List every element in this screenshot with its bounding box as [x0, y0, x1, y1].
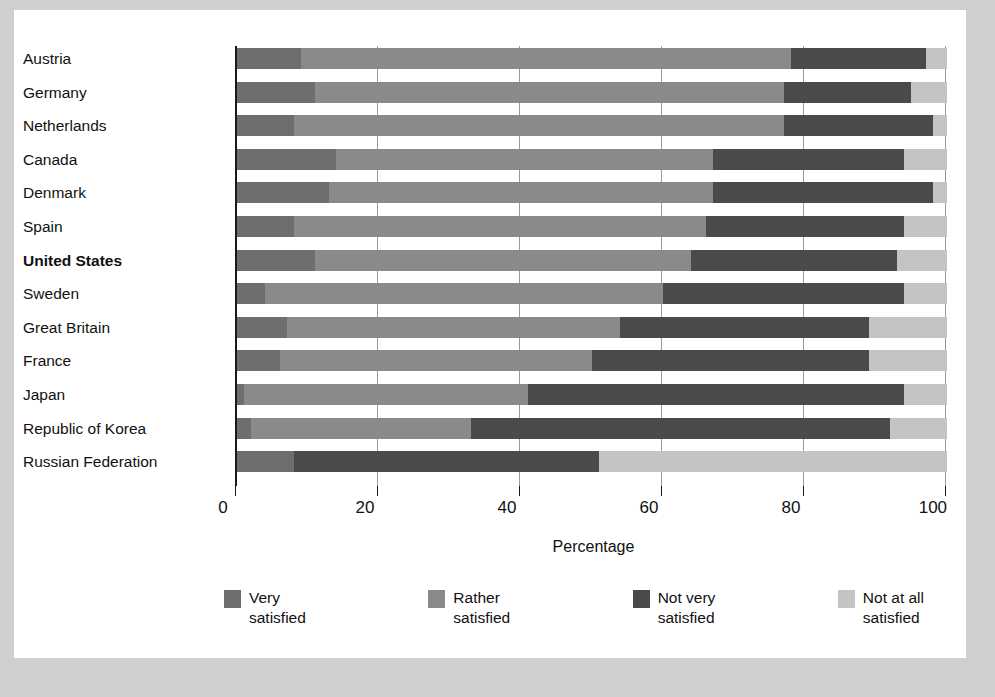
bar-row: Spain [235, 216, 952, 237]
bar-segment [237, 149, 336, 170]
legend-item[interactable]: Not at all satisfied [838, 588, 924, 628]
category-label: Japan [23, 384, 235, 405]
bar-segment [713, 149, 905, 170]
stacked-bar [237, 182, 947, 203]
bar-segment [237, 350, 280, 371]
legend-swatch-icon [224, 590, 241, 608]
bar-segment [904, 283, 947, 304]
bar-segment [294, 216, 706, 237]
stacked-bar [237, 418, 947, 439]
bar-segment [329, 182, 712, 203]
bar-segment [869, 317, 947, 338]
bar-segment [599, 451, 947, 472]
tick-label: 0 [218, 498, 227, 518]
bar-segment [713, 182, 933, 203]
bar-row: Austria [235, 48, 952, 69]
legend-item[interactable]: Rather satisfied [428, 588, 510, 628]
stacked-bar [237, 82, 947, 103]
bar-segment [237, 317, 287, 338]
bar-segment [237, 384, 244, 405]
bar-segment [237, 182, 329, 203]
bar-row: Republic of Korea [235, 418, 952, 439]
stacked-bar [237, 149, 947, 170]
bar-segment [287, 317, 621, 338]
tick-mark-60 [661, 486, 662, 496]
stacked-bar [237, 216, 947, 237]
bar-segment [336, 149, 712, 170]
x-axis-label: Percentage [235, 538, 952, 556]
legend-label: Not at all satisfied [863, 588, 924, 628]
bar-segment [237, 216, 294, 237]
bar-segment [784, 115, 933, 136]
legend-item[interactable]: Very satisfied [224, 588, 306, 628]
tick-mark-40 [519, 486, 520, 496]
bar-segment [784, 82, 912, 103]
stacked-bar [237, 115, 947, 136]
bar-segment [237, 418, 251, 439]
bar-segment [869, 350, 947, 371]
bar-segment [897, 250, 947, 271]
legend-swatch-icon [633, 590, 650, 608]
bar-segment [244, 384, 528, 405]
bar-segment [301, 48, 791, 69]
bar-segment [237, 48, 301, 69]
bar-row: Sweden [235, 283, 952, 304]
bar-segment [280, 350, 592, 371]
bar-segment [237, 115, 294, 136]
bar-segment [904, 149, 947, 170]
bar-segment [691, 250, 897, 271]
tick-mark-0 [235, 486, 236, 496]
legend-swatch-icon [428, 590, 445, 608]
category-label: Canada [23, 149, 235, 170]
tick-mark-20 [377, 486, 378, 496]
bar-segment [294, 115, 784, 136]
bar-segment [294, 451, 599, 472]
legend-label: Rather satisfied [453, 588, 510, 628]
bar-segment [265, 283, 663, 304]
category-label: Great Britain [23, 317, 235, 338]
category-label: Denmark [23, 182, 235, 203]
bar-segment [528, 384, 904, 405]
bar-row: Great Britain [235, 317, 952, 338]
bar-segment [663, 283, 904, 304]
bar-segment [911, 82, 946, 103]
bar-row: Canada [235, 149, 952, 170]
category-label: Russian Federation [23, 451, 235, 472]
tick-mark-80 [803, 486, 804, 496]
bar-row: France [235, 350, 952, 371]
stacked-bar [237, 451, 947, 472]
category-label: Germany [23, 82, 235, 103]
category-label: Spain [23, 216, 235, 237]
bar-row: Germany [235, 82, 952, 103]
category-label: Sweden [23, 283, 235, 304]
category-label: Republic of Korea [23, 418, 235, 439]
category-label: Austria [23, 48, 235, 69]
bar-segment [933, 182, 947, 203]
bar-segment [933, 115, 947, 136]
bar-row: Japan [235, 384, 952, 405]
tick-label: 80 [781, 498, 800, 518]
tick-label: 20 [356, 498, 375, 518]
tick-label: 40 [497, 498, 516, 518]
bar-segment [620, 317, 868, 338]
bar-segment [904, 384, 947, 405]
bar-segment [237, 451, 294, 472]
stacked-bar [237, 48, 947, 69]
chart-legend: Very satisfiedRather satisfiedNot very s… [224, 588, 924, 628]
bar-segment [237, 250, 315, 271]
stacked-bar [237, 250, 947, 271]
bar-row: Denmark [235, 182, 952, 203]
bar-segment [237, 283, 265, 304]
bar-row: Russian Federation [235, 451, 952, 472]
bar-segment [315, 82, 784, 103]
category-label: United States [23, 250, 235, 271]
bar-segment [904, 216, 947, 237]
bar-segment [592, 350, 869, 371]
legend-item[interactable]: Not very satisfied [633, 588, 716, 628]
bar-segment [251, 418, 471, 439]
bar-row: Netherlands [235, 115, 952, 136]
legend-label: Very satisfied [249, 588, 306, 628]
bar-segment [890, 418, 947, 439]
stacked-bar [237, 384, 947, 405]
tick-mark-100 [945, 486, 946, 496]
